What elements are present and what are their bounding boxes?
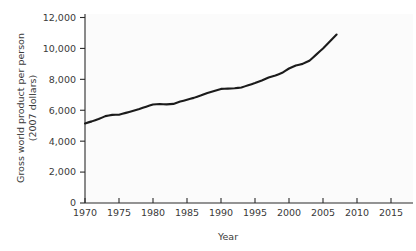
x-tick-label: 1985 <box>175 207 199 218</box>
y-axis-title-line1: Gross world product per person <box>15 33 26 183</box>
x-axis-tick-labels: 1970197519801985199019952000200520102015 <box>73 207 403 218</box>
y-tick-label: 6,000 <box>49 105 76 116</box>
y-axis-tick-labels: 02,0004,0006,0008,00010,00012,000 <box>43 12 76 209</box>
x-tick-label: 2000 <box>277 207 301 218</box>
x-tick-label: 2010 <box>345 207 369 218</box>
chart-container: 1970197519801985199019952000200520102015… <box>0 0 416 251</box>
y-tick-label: 4,000 <box>49 136 76 147</box>
y-tick-label: 0 <box>70 197 76 208</box>
x-tick-label: 1975 <box>107 207 131 218</box>
y-axis-ticks <box>80 18 85 204</box>
x-tick-label: 2005 <box>311 207 335 218</box>
y-tick-label: 10,000 <box>43 43 76 54</box>
x-tick-label: 1990 <box>209 207 233 218</box>
y-axis-title-line2: (2007 dollars) <box>27 75 38 141</box>
y-tick-label: 8,000 <box>49 74 76 85</box>
x-tick-label: 1980 <box>141 207 165 218</box>
x-axis-title: Year <box>217 231 238 242</box>
line-chart: 1970197519801985199019952000200520102015… <box>0 0 416 251</box>
x-tick-label: 2015 <box>379 207 403 218</box>
y-tick-label: 2,000 <box>49 166 76 177</box>
x-tick-label: 1970 <box>73 207 97 218</box>
y-tick-label: 12,000 <box>43 12 76 23</box>
x-tick-label: 1995 <box>243 207 267 218</box>
plot-area-background <box>85 14 413 203</box>
